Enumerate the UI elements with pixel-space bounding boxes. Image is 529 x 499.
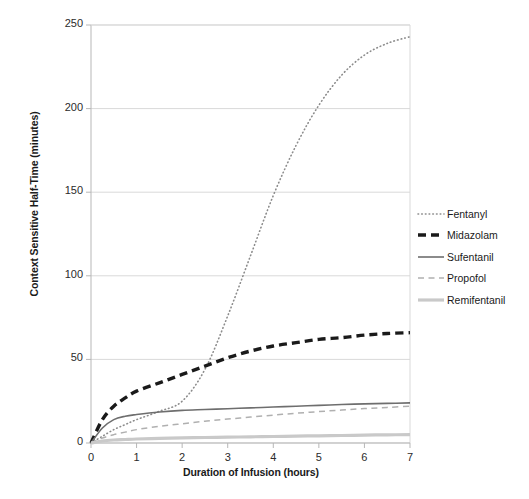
y-tick-label: 0 xyxy=(43,435,83,447)
x-tick-label: 1 xyxy=(125,451,149,463)
chart-legend: FentanylMidazolamSufentanilPropofolRemif… xyxy=(417,203,505,311)
x-tick-label: 6 xyxy=(352,451,376,463)
legend-label: Propofol xyxy=(447,272,486,284)
y-tick-label: 250 xyxy=(43,17,83,29)
series-line-remifentanil xyxy=(91,435,410,443)
legend-swatch-sufentanil xyxy=(417,251,445,263)
legend-item-sufentanil[interactable]: Sufentanil xyxy=(417,246,505,268)
legend-swatch-remifentanil xyxy=(417,294,445,306)
legend-label: Sufentanil xyxy=(447,251,494,263)
legend-swatch-fentanyl xyxy=(417,208,445,220)
x-tick-label: 4 xyxy=(261,451,285,463)
legend-label: Remifentanil xyxy=(447,294,505,306)
legend-item-midazolam[interactable]: Midazolam xyxy=(417,225,505,247)
series-line-fentanyl xyxy=(91,37,410,443)
legend-label: Midazolam xyxy=(447,229,498,241)
x-tick-label: 3 xyxy=(216,451,240,463)
legend-swatch-midazolam xyxy=(417,229,445,241)
y-tick-label: 100 xyxy=(43,268,83,280)
x-tick-label: 5 xyxy=(307,451,331,463)
y-axis-title: Context Sensitive Half-Time (minutes) xyxy=(28,84,40,324)
legend-swatch-propofol xyxy=(417,272,445,284)
y-tick-label: 50 xyxy=(43,351,83,363)
legend-item-propofol[interactable]: Propofol xyxy=(417,268,505,290)
y-tick-label: 200 xyxy=(43,101,83,113)
legend-item-remifentanil[interactable]: Remifentanil xyxy=(417,289,505,311)
series-line-midazolam xyxy=(91,333,410,443)
x-tick-label: 7 xyxy=(398,451,422,463)
legend-item-fentanyl[interactable]: Fentanyl xyxy=(417,203,505,225)
x-tick-label: 2 xyxy=(170,451,194,463)
legend-label: Fentanyl xyxy=(447,208,487,220)
x-tick-label: 0 xyxy=(79,451,103,463)
x-axis-title: Duration of Infusion (hours) xyxy=(91,466,411,478)
y-tick-label: 150 xyxy=(43,184,83,196)
chart-container: 050100150200250 01234567 Context Sensiti… xyxy=(0,0,529,499)
